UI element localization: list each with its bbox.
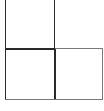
- middle-horizontal-line-left: [5, 48, 55, 50]
- left-border-line: [5, 0, 6, 100]
- middle-divider-line-lower: [54, 49, 56, 100]
- cell-top-left: [6, 0, 54, 48]
- cell-bottom-left: [6, 50, 54, 99]
- right-border-line: [102, 48, 103, 100]
- middle-divider-line-upper: [54, 0, 55, 49]
- cell-bottom-right: [56, 50, 102, 99]
- middle-horizontal-line-right: [55, 48, 103, 49]
- bottom-border-line: [5, 99, 103, 100]
